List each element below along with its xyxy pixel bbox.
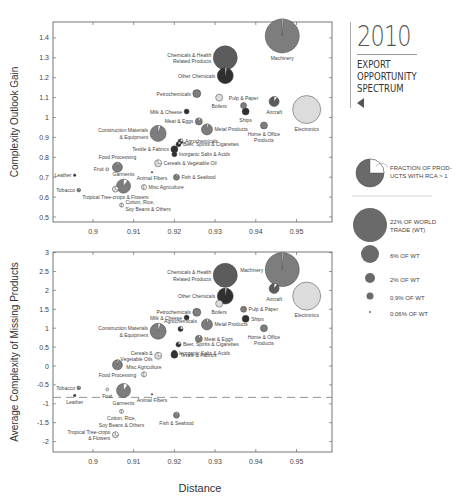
- title-divider: [357, 54, 417, 55]
- bubble: [241, 103, 247, 109]
- bubble: [213, 263, 237, 287]
- point-label: Garments: [113, 171, 135, 177]
- x-tick-label: 0.93: [208, 458, 222, 465]
- bubble: [193, 308, 201, 316]
- y-tick-label: -1: [43, 400, 49, 407]
- y-tick-label: 3: [45, 249, 49, 256]
- point-label: Cotton, Rice,: [125, 199, 154, 205]
- y-tick-label: 2: [45, 287, 49, 294]
- point-label: Construction Materials: [98, 127, 148, 133]
- point-label: Animal Fibers: [137, 397, 168, 403]
- point-label: Leather: [66, 399, 83, 405]
- point-label: Construction Materials: [98, 325, 148, 331]
- point-label: & Equipment: [119, 134, 148, 140]
- rca-slice: [79, 188, 81, 190]
- point-label: Fish & Seafood: [181, 174, 215, 180]
- y-tick-label: 1: [45, 114, 49, 121]
- point-label: Metal Products: [214, 321, 248, 327]
- bubble: [216, 300, 223, 307]
- y-axis-title: Complexity Outlook Gain: [9, 67, 20, 178]
- point-label: Food Processing: [99, 154, 137, 160]
- point-label: Garments: [113, 400, 135, 406]
- legend-size-label-0b: TRADE (WT): [390, 226, 425, 234]
- legend-size-label-2: 2% OF WT: [390, 276, 420, 284]
- point-label: Inorganic Salts & Acids: [179, 151, 231, 157]
- y-tick-label: 0.7: [39, 174, 49, 181]
- bubble: [73, 174, 75, 176]
- size-legend: [352, 159, 432, 313]
- top-chart-complexity-outlook-gain: 0.90.910.920.930.940.950.50.60.70.80.911…: [9, 19, 332, 235]
- legend-size-circle: [361, 245, 379, 263]
- y-tick-label: 0.6: [39, 194, 49, 201]
- x-tick-label: 0.92: [168, 458, 182, 465]
- bubble: [241, 306, 247, 312]
- point-label: Soy Beans & Others: [99, 422, 145, 428]
- point-label: Products: [254, 340, 274, 346]
- bubble: [213, 46, 237, 70]
- point-label: Cotton, Rice,: [107, 415, 136, 421]
- x-tick-label: 0.9: [88, 458, 98, 465]
- point-label: Misc Agriculture: [126, 364, 162, 370]
- title-line-1: EXPORT: [357, 59, 442, 71]
- point-label: Soy Beans & Others: [125, 206, 171, 212]
- legend-size-label-0a: 22% OF WORLD: [390, 218, 436, 226]
- rca-slice: [79, 386, 81, 388]
- legend-pie-label-1: FRACTION OF PROD-: [390, 164, 452, 172]
- point-label: Cereals &: [131, 350, 154, 356]
- point-label: Leather: [55, 172, 72, 178]
- bottom-chart-average-complexity: 0.90.910.920.930.940.95-2-1.5-1-0.500.51…: [9, 249, 332, 494]
- point-label: Tropical Tree-crops: [67, 429, 110, 435]
- point-label: Electronics: [294, 312, 319, 318]
- point-label: Textile & Fabrics: [132, 146, 169, 152]
- point-label: Home & Office: [248, 131, 281, 137]
- point-label: Tobacco: [56, 187, 75, 193]
- bubble: [260, 325, 267, 332]
- title-line-3: SPECTRUM: [357, 83, 442, 95]
- y-tick-label: 0.5: [39, 214, 49, 221]
- point-label: Products: [254, 137, 274, 143]
- point-label: Related Products: [173, 276, 212, 282]
- title-line-2: OPPORTUNITY: [357, 71, 442, 83]
- bubble: [172, 350, 177, 355]
- point-label: Electronics: [294, 126, 319, 132]
- bubble: [151, 394, 153, 396]
- rca-slice: [158, 352, 162, 356]
- x-tick-label: 0.95: [290, 228, 304, 235]
- point-label: Pulp & Paper: [249, 306, 279, 312]
- x-tick-label: 0.94: [249, 228, 263, 235]
- y-tick-label: 1.1: [39, 94, 49, 101]
- title-year: 2010: [357, 22, 437, 52]
- point-label: Ships: [239, 117, 252, 123]
- point-label: Fruit: [102, 393, 113, 399]
- title-block: 2010 EXPORT OPPORTUNITY SPECTRUM: [350, 22, 457, 108]
- point-label: Textile & Fabrics: [180, 352, 217, 358]
- point-label: Cereals & Vegetable Oil: [164, 160, 217, 166]
- point-label: Beer, Spirits & Cigarettes: [183, 141, 239, 147]
- y-tick-label: 0: [45, 363, 49, 370]
- point-label: Vegetable Oils: [120, 356, 153, 362]
- y-tick-label: 0.8: [39, 154, 49, 161]
- legend-size-circle: [369, 311, 371, 313]
- left-arrow-icon[interactable]: [357, 98, 364, 108]
- bubble: [151, 171, 153, 173]
- y-tick-label: 1.4: [39, 34, 49, 41]
- y-tick-label: -2: [43, 438, 49, 445]
- point-label: Home & Office: [248, 334, 281, 340]
- point-label: Meat & Eggs: [165, 118, 194, 124]
- x-tick-label: 0.95: [290, 458, 304, 465]
- y-tick-label: 1.5: [39, 306, 49, 313]
- y-tick-label: 0.5: [39, 344, 49, 351]
- x-tick-label: 0.92: [168, 228, 182, 235]
- y-tick-label: 0.9: [39, 134, 49, 141]
- rca-slice: [121, 409, 123, 413]
- rca-slice: [144, 372, 147, 377]
- x-tick-label: 0.94: [249, 458, 263, 465]
- x-axis-title: Distance: [179, 482, 222, 494]
- x-tick-label: 0.9: [88, 228, 98, 235]
- point-label: Aircraft: [266, 296, 282, 302]
- bubble: [106, 388, 109, 391]
- point-label: Petrochemicals: [157, 91, 192, 97]
- point-label: Related Products: [173, 58, 212, 64]
- y-tick-label: 1.3: [39, 54, 49, 61]
- point-label: Fruit: [94, 166, 105, 172]
